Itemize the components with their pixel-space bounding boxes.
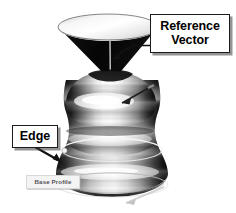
callout-edge: Edge xyxy=(12,125,58,148)
edge-node-marker xyxy=(62,148,67,153)
waist-shadow xyxy=(66,126,154,136)
edge-arrow xyxy=(35,147,62,163)
callout-reference-vector-line1: Reference xyxy=(153,19,227,33)
callout-base-profile: Base Profile xyxy=(26,175,80,189)
figure-canvas: Reference Vector Edge Base Profile xyxy=(0,0,236,213)
callout-base-profile-label: Base Profile xyxy=(28,179,78,186)
bulb-specular-core xyxy=(82,96,120,105)
callout-reference-vector-line2: Vector xyxy=(153,33,227,47)
callout-edge-label: Edge xyxy=(15,129,55,143)
callout-reference-vector: Reference Vector xyxy=(150,14,230,53)
